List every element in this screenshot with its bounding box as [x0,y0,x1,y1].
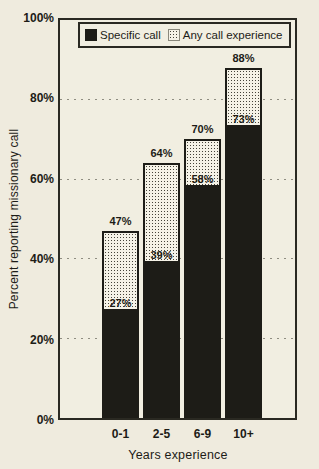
legend: Specific call Any call experience [78,22,291,48]
ytick-0%: 0% [0,412,54,428]
ytick-40%: 40% [0,251,54,267]
bar-2-5-specific-label: 39% [143,249,180,262]
bar-0-1 [102,231,139,418]
bar-6-9-specific-segment [184,185,221,418]
legend-label-any-call-experience: Any call experience [183,29,283,41]
specific-call-swatch-icon [85,29,97,41]
bar-chart-figure: Percent reporting missionary call 0%20%4… [0,0,319,469]
ytick-100%: 100% [0,10,54,26]
bar-2-5-specific-segment [143,261,180,418]
ytick-80%: 80% [0,90,54,106]
bar-10+-specific-segment [225,125,262,418]
bar-6-9-total-label: 70% [184,123,221,136]
bar-2-5 [143,163,180,418]
bar-6-9-specific-label: 58% [184,173,221,186]
plot-area: 47%27%64%39%70%58%88%73% Specific call A… [58,18,297,420]
bar-0-1-specific-label: 27% [102,297,139,310]
bar-0-1-specific-segment [102,309,139,418]
legend-label-specific-call: Specific call [100,29,161,41]
any-call-swatch-icon [168,29,180,41]
bar-10+-specific-label: 73% [225,113,262,126]
y-axis-tick-labels: 0%20%40%60%80%100% [0,18,54,420]
xtick-10+: 10+ [214,427,274,441]
bar-2-5-total-label: 64% [143,147,180,160]
bar-0-1-total-label: 47% [102,215,139,228]
bars-layer: 47%27%64%39%70%58%88%73% [60,20,295,418]
bar-10+-total-label: 88% [225,52,262,65]
ytick-60%: 60% [0,171,54,187]
x-axis-title: Years experience [58,448,298,462]
ytick-20%: 20% [0,332,54,348]
